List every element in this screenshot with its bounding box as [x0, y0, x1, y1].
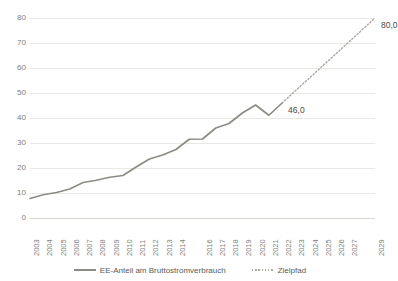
y-tick-label: 30	[2, 139, 26, 147]
y-tick-label: 70	[2, 39, 26, 47]
x-tick-label: 2017	[219, 239, 227, 256]
x-tick-label: 2023	[298, 239, 306, 256]
y-tick-label: 20	[2, 164, 26, 172]
solid-line-icon	[74, 267, 96, 273]
x-tick-label: 2021	[272, 239, 280, 256]
x-tick-label: 2027	[351, 239, 359, 256]
x-tick-label: 2020	[259, 239, 267, 256]
y-tick-label: 0	[2, 214, 26, 222]
x-axis-line	[30, 218, 375, 219]
x-tick-label: 2005	[60, 239, 68, 256]
x-tick-label: 2024	[312, 239, 320, 256]
y-axis: 01020304050607080	[0, 18, 26, 218]
x-tick-label: 2010	[126, 239, 134, 256]
x-tick-label: 2022	[285, 239, 293, 256]
x-tick-label: 2012	[152, 239, 160, 256]
y-tick-label: 40	[2, 114, 26, 122]
y-tick-label: 50	[2, 89, 26, 97]
data-point-label: 46,0	[288, 106, 305, 115]
x-tick-label: 2026	[338, 239, 346, 256]
y-tick-label: 10	[2, 189, 26, 197]
data-point-label: 80,0	[381, 21, 398, 30]
x-tick-label: 2019	[245, 239, 253, 256]
y-tick-label: 80	[2, 14, 26, 22]
chart-legend: EE-Anteil am BruttostromverbrauchZielpfa…	[0, 262, 380, 278]
legend-item[interactable]: EE-Anteil am Bruttostromverbrauch	[74, 266, 226, 275]
x-tick-label: 2004	[46, 239, 54, 256]
legend-item-label: Zielpfad	[278, 266, 306, 275]
x-tick-label: 2013	[166, 239, 174, 256]
x-tick-label: 2014	[179, 239, 187, 256]
x-tick-label: 2006	[73, 239, 81, 256]
x-tick-label: 2025	[325, 239, 333, 256]
legend-item-label: EE-Anteil am Bruttostromverbrauch	[100, 266, 226, 275]
x-tick-label: 2029	[378, 239, 386, 256]
series-line	[30, 103, 282, 199]
x-tick-label: 2011	[139, 240, 147, 256]
x-tick-label: 2018	[232, 239, 240, 256]
x-axis: 2003200420052006200720082009201020112012…	[30, 220, 375, 258]
legend-item[interactable]: Zielpfad	[252, 266, 306, 275]
series-layer	[30, 18, 375, 218]
dotted-line-icon	[252, 267, 274, 273]
x-tick-label: 2016	[206, 239, 214, 256]
series-line	[282, 18, 375, 103]
x-tick-label: 2003	[33, 239, 41, 256]
x-tick-label: 2009	[113, 239, 121, 256]
x-tick-label: 2007	[86, 239, 94, 256]
plot-area: 46,080,0	[30, 18, 375, 218]
y-tick-label: 60	[2, 64, 26, 72]
x-tick-label: 2008	[99, 239, 107, 256]
